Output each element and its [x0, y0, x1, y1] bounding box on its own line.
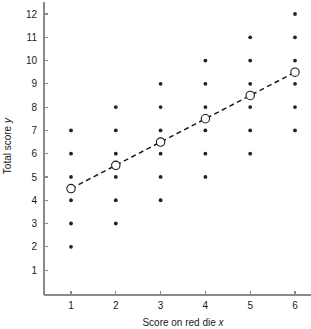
conditional-mean-marker [246, 91, 254, 99]
x-tick-label: 5 [247, 300, 253, 311]
data-point [159, 105, 163, 109]
x-tick-label: 4 [203, 300, 209, 311]
data-point [293, 82, 297, 86]
data-point [69, 198, 73, 202]
y-tick-label: 11 [27, 32, 38, 43]
data-point [114, 198, 118, 202]
y-tick-label: 2 [31, 241, 37, 252]
data-point [204, 105, 208, 109]
plot-canvas: 123456789101112 123456 Score on red die … [0, 0, 311, 329]
y-tick-label: 5 [31, 172, 37, 183]
data-point [204, 59, 208, 63]
x-axis-ticks [71, 291, 295, 295]
y-tick-label: 8 [31, 102, 37, 113]
regression-line [71, 72, 295, 188]
data-point [248, 129, 252, 133]
data-point [159, 198, 163, 202]
conditional-mean-marker [291, 68, 299, 76]
conditional-mean-marker [67, 184, 75, 192]
data-point [293, 35, 297, 39]
data-point [248, 59, 252, 63]
x-tick-label: 3 [158, 300, 164, 311]
data-point [293, 59, 297, 63]
conditional-mean-marker [156, 138, 164, 146]
data-point [204, 129, 208, 133]
x-axis-title: Score on red die x [142, 317, 224, 328]
data-point [69, 245, 73, 249]
data-point [114, 129, 118, 133]
x-axis-tick-labels: 123456 [68, 300, 298, 311]
conditional-mean-marker [201, 115, 209, 123]
y-tick-label: 12 [26, 9, 38, 20]
data-point [114, 222, 118, 226]
data-point [248, 105, 252, 109]
data-point [159, 129, 163, 133]
y-tick-label: 7 [31, 125, 37, 136]
data-point [204, 152, 208, 156]
y-tick-label: 6 [31, 148, 37, 159]
data-point [159, 152, 163, 156]
data-point-group [69, 12, 297, 249]
y-axis-title: Total score y [2, 117, 13, 174]
data-point [69, 152, 73, 156]
data-point [114, 152, 118, 156]
data-point [159, 175, 163, 179]
data-point [114, 175, 118, 179]
y-tick-label: 1 [31, 265, 37, 276]
regression-line-group [71, 72, 295, 188]
data-point [248, 82, 252, 86]
data-point [114, 105, 118, 109]
y-axis-tick-labels: 123456789101112 [26, 9, 38, 276]
data-point [69, 175, 73, 179]
y-tick-label: 9 [31, 78, 37, 89]
data-point [204, 82, 208, 86]
data-point [248, 152, 252, 156]
data-point [248, 35, 252, 39]
y-axis-ticks [44, 14, 48, 270]
scatter-plot-figure: 123456789101112 123456 Score on red die … [0, 0, 311, 329]
conditional-mean-group [67, 68, 299, 193]
data-point [69, 222, 73, 226]
data-point [293, 12, 297, 16]
data-point [69, 129, 73, 133]
data-point [293, 105, 297, 109]
data-point [159, 82, 163, 86]
data-point [204, 175, 208, 179]
y-tick-label: 3 [31, 218, 37, 229]
y-tick-label: 10 [26, 55, 38, 66]
y-tick-label: 4 [31, 195, 37, 206]
data-point [293, 129, 297, 133]
x-tick-label: 2 [113, 300, 119, 311]
axes-group [44, 2, 311, 295]
x-tick-label: 1 [68, 300, 74, 311]
x-tick-label: 6 [292, 300, 298, 311]
conditional-mean-marker [112, 161, 120, 169]
